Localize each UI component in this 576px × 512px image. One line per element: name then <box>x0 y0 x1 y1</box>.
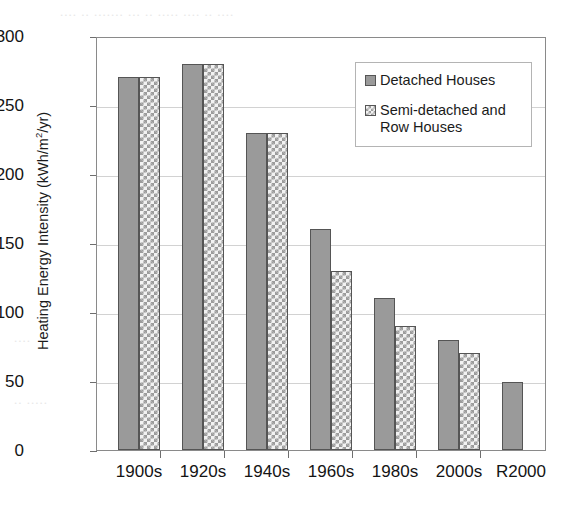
chart-page: .... .. ....... ... .. ..... .... .. ...… <box>0 0 576 512</box>
y-axis-title-superscript: 2 <box>33 133 44 138</box>
bar-1920s-semidetached <box>203 64 224 450</box>
y-axis-title: Heating Energy Intensity (kWh/m2/yr) <box>33 41 51 421</box>
bar-1940s-semidetached <box>267 133 288 450</box>
x-tick-label-r2000: R2000 <box>476 462 566 482</box>
bar-r2000-detached <box>502 382 523 450</box>
y-tick-label-200: 200 <box>0 165 24 185</box>
legend-entry-detached-houses: Detached Houses <box>365 72 523 89</box>
legend-label-line2: Row Houses <box>380 119 462 135</box>
y-axis-title-post: /yr) <box>35 112 51 133</box>
x-tick-mark-5 <box>416 451 417 458</box>
gridline-200 <box>97 176 545 177</box>
checkered-swatch-icon <box>365 105 376 116</box>
bar-1900s-semidetached <box>139 77 160 450</box>
bar-2000s-semidetached <box>459 353 480 450</box>
bar-1920s-detached <box>182 64 203 450</box>
bar-1960s-semidetached <box>331 271 352 450</box>
y-tick-label-250: 250 <box>0 96 24 116</box>
y-tick-label-150: 150 <box>0 234 24 254</box>
legend-entry-semidetached-row-houses: Semi-detached andRow Houses <box>365 102 523 136</box>
y-tick-label-300: 300 <box>0 27 24 47</box>
legend: Detached Houses Semi-detached andRow Hou… <box>355 62 532 147</box>
x-tick-mark-2 <box>224 451 225 458</box>
bar-1940s-detached <box>246 133 267 450</box>
scan-ghost-text-top: .... .. ....... ... .. ..... .... .. ...… <box>60 4 234 20</box>
x-tick-mark-3 <box>288 451 289 458</box>
scan-ghost-text-left: .... <box>14 330 31 346</box>
y-tick-label-50: 50 <box>0 372 24 392</box>
x-tick-mark-1 <box>160 451 161 458</box>
bar-1960s-detached <box>310 229 331 450</box>
legend-label-semidetached-row-houses: Semi-detached andRow Houses <box>380 102 506 136</box>
legend-label-line1: Semi-detached and <box>380 102 506 118</box>
y-tick-label-100: 100 <box>0 303 24 323</box>
y-tick-label-0: 0 <box>0 441 24 461</box>
x-tick-mark-6 <box>480 451 481 458</box>
bar-1980s-semidetached <box>395 326 416 450</box>
y-axis-title-pre: Heating Energy Intensity (kWh/m <box>35 138 51 350</box>
bar-1980s-detached <box>374 298 395 450</box>
bar-1900s-detached <box>118 77 139 450</box>
y-tick-mark-0 <box>90 451 97 452</box>
x-tick-mark-4 <box>352 451 353 458</box>
bar-2000s-detached <box>438 340 459 450</box>
solid-gray-swatch-icon <box>365 75 376 86</box>
legend-label-detached-houses: Detached Houses <box>380 72 495 89</box>
